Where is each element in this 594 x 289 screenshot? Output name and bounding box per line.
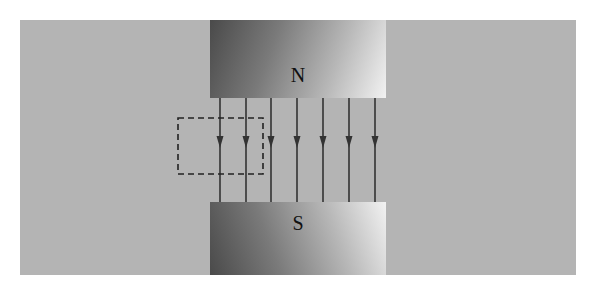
arrow-down-icon — [346, 136, 353, 148]
magnetic-field-lines — [217, 98, 379, 202]
arrow-down-icon — [243, 136, 250, 148]
arrow-down-icon — [372, 136, 379, 148]
arrow-down-icon — [294, 136, 301, 148]
arrow-down-icon — [217, 136, 224, 148]
arrow-down-icon — [268, 136, 275, 148]
arrow-down-icon — [320, 136, 327, 148]
field-overlay — [0, 0, 594, 289]
